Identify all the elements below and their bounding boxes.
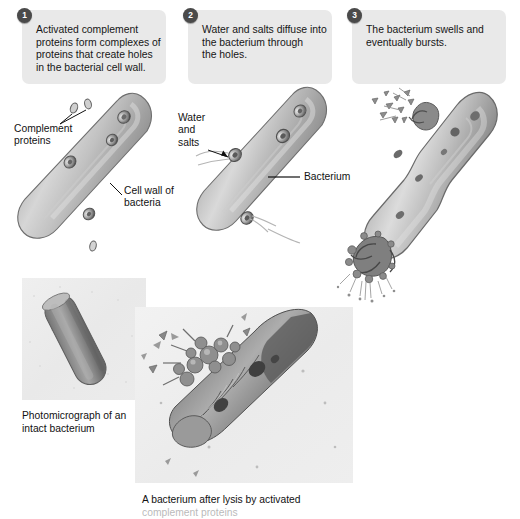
- panel-1-illustration: [18, 93, 152, 251]
- step-callout-1-text: Activated complement proteins form compl…: [36, 24, 164, 74]
- complement-pore: [81, 206, 97, 222]
- photo-lysed-bacterium: [135, 307, 353, 483]
- free-complement-protein: [84, 98, 93, 109]
- step-callout-3-text: The bacterium swells and eventually burs…: [366, 24, 504, 49]
- panel-3-illustration: [337, 88, 497, 303]
- step-badge-1: 1: [17, 8, 32, 23]
- caption-lysed-bacterium-clipped-line: complement proteins: [142, 506, 402, 519]
- step-badge-3: 3: [347, 8, 362, 23]
- label-cell-wall-of-bacteria: Cell wall of bacteria: [124, 185, 174, 210]
- free-complement-protein: [69, 102, 79, 114]
- step-callout-2-text: Water and salts diffuse into the bacteri…: [202, 24, 330, 62]
- step-badge-2: 2: [183, 8, 198, 23]
- rupture-bottom: [337, 231, 396, 303]
- free-complement-protein: [89, 240, 97, 251]
- label-water-and-salts: Water and salts: [178, 112, 205, 149]
- label-complement-proteins: Complement proteins: [14, 123, 72, 148]
- rupture-top: [372, 88, 439, 130]
- caption-lysed-bacterium: A bacterium after lysis by activated: [142, 493, 402, 506]
- label-bacterium: Bacterium: [304, 171, 350, 183]
- panel-2-illustration: [196, 87, 327, 243]
- photo-intact-bacterium: [22, 278, 146, 400]
